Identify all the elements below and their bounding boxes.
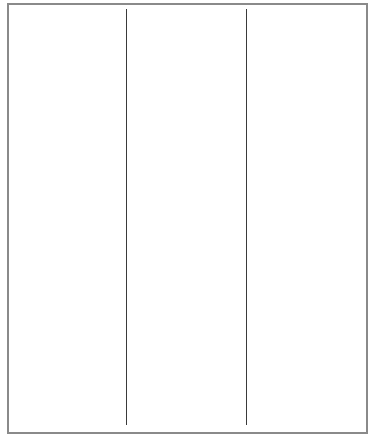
outer-frame	[7, 3, 368, 434]
column-1	[9, 5, 126, 432]
page-canvas	[0, 0, 374, 443]
column-3	[247, 5, 366, 432]
column-2	[127, 5, 246, 432]
